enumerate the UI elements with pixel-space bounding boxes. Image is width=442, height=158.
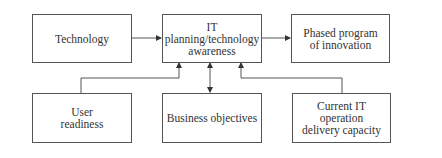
node-it-planning-label: IT planning/technology awareness (165, 21, 260, 57)
arrow-user-readiness-to-it-planning (81, 63, 179, 93)
node-business-objectives-label: Business objectives (167, 112, 257, 124)
node-business-objectives: Business objectives (162, 93, 262, 143)
node-technology: Technology (32, 14, 132, 63)
node-user-readiness: User readiness (32, 93, 132, 143)
node-phased-program-label: Phased program of innovation (303, 27, 377, 51)
node-technology-label: Technology (55, 33, 109, 45)
node-it-planning: IT planning/technology awareness (162, 14, 262, 63)
node-phased-program: Phased program of innovation (291, 14, 390, 63)
node-current-it-label: Current IT operation delivery capacity (302, 100, 381, 136)
node-current-it: Current IT operation delivery capacity (292, 93, 391, 143)
arrow-current-it-to-it-planning (241, 63, 342, 93)
node-user-readiness-label: User readiness (61, 106, 104, 130)
